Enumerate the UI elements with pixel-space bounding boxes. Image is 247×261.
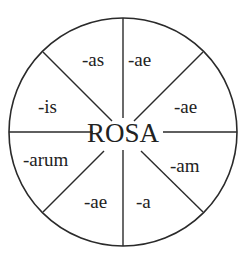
segment-top-left: -as (82, 49, 104, 70)
segment-right-lower: -am (170, 155, 200, 176)
segment-left-lower: -arum (23, 149, 69, 170)
center-word: ROSA (87, 118, 160, 148)
segment-right-upper: -ae (174, 96, 197, 117)
declension-wheel: ROSA -ae -ae -am -a -ae -arum -is -as (0, 0, 247, 261)
segment-top-right: -ae (128, 49, 151, 70)
segment-bottom-right: -a (136, 191, 151, 212)
segment-bottom-left: -ae (84, 191, 107, 212)
segment-left-upper: -is (38, 96, 57, 117)
